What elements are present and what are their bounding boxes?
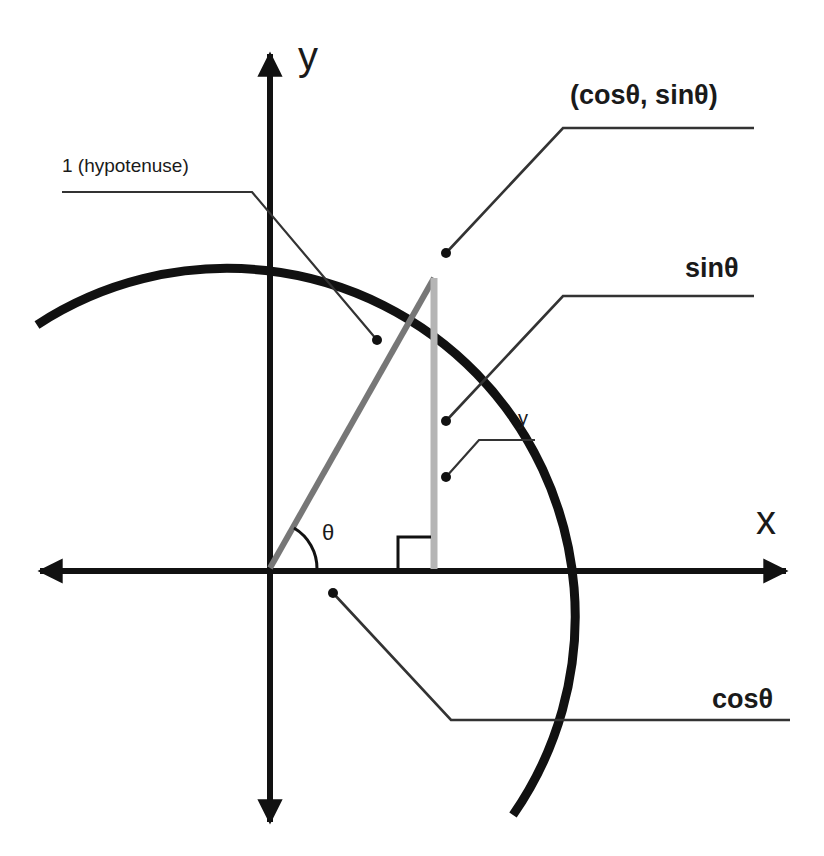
x-axis-label: x [756,498,776,542]
sin-label: sinθ [685,253,739,283]
leader-dot-cos [328,588,338,598]
hypotenuse-segment [270,278,434,568]
leader-dot-point [441,248,451,258]
unit-circle-diagram: y x θ 1 (hypotenuse) (cosθ, sinθ) sinθ y… [0,0,824,856]
leader-sin [446,296,754,421]
right-angle-marker [398,537,431,569]
cos-label: cosθ [712,684,773,714]
hypotenuse-label: 1 (hypotenuse) [62,155,189,176]
theta-label: θ [322,520,334,545]
point-label: (cosθ, sinθ) [570,80,718,110]
angle-arc [294,528,317,569]
unit-circle-arc [37,268,575,815]
diagram-canvas: y x θ 1 (hypotenuse) (cosθ, sinθ) sinθ y… [0,0,824,856]
leader-dot-sin [441,416,451,426]
y-side-label: y [518,407,528,429]
y-axis-label: y [298,34,318,78]
leader-point [446,128,754,253]
leader-dot-y [441,472,451,482]
leader-dot-hypotenuse [372,335,382,345]
leader-y [446,440,535,477]
